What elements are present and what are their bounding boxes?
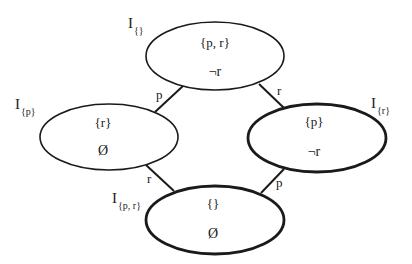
node-top-value: ¬r [209,64,222,79]
node-bottom-set: {} [207,196,219,211]
node-left-ellipse [40,104,178,170]
node-right-value: ¬r [308,144,321,159]
node-left-set: {r} [95,115,112,130]
node-left: {r} Ø I{p} [15,96,178,170]
lattice-diagram: p r r p {p, r} ¬r I{} {r} Ø I{p} {p} ¬r … [0,0,412,264]
node-left-value: Ø [98,143,108,158]
edge-label-right-bottom: p [276,175,283,190]
node-bottom-label: I{p, r} [112,190,141,211]
node-top-ellipse [146,22,284,90]
node-right-set: {p} [305,114,324,129]
edge-label-top-left: p [156,87,163,102]
node-top: {p, r} ¬r I{} [128,15,284,90]
node-left-label: I{p} [15,96,36,117]
node-right-label: I{r} [371,95,390,116]
node-top-set: {p, r} [200,35,230,50]
node-bottom: {} Ø I{p, r} [112,186,284,254]
node-top-label: I{} [128,15,144,36]
node-right: {p} ¬r I{r} [248,95,390,172]
edge-label-top-right: r [277,83,282,98]
node-bottom-value: Ø [208,226,218,241]
edge-label-left-bottom: r [147,171,152,186]
